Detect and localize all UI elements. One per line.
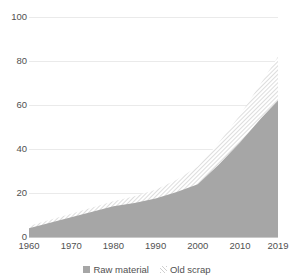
chart-legend: Raw materialOld scrap bbox=[0, 262, 294, 276]
y-axis-tick-label: 80 bbox=[1, 56, 27, 66]
solid-gray-square-icon bbox=[83, 266, 90, 273]
y-axis-tick-label: 20 bbox=[1, 188, 27, 198]
hatched-square-icon bbox=[160, 266, 167, 273]
chart-title bbox=[0, 0, 294, 3]
x-axis: 1960197019801990200020102019 bbox=[0, 240, 294, 254]
y-axis-tick-label: 60 bbox=[1, 100, 27, 110]
x-axis-tick-label: 2000 bbox=[187, 240, 208, 252]
y-axis-tick-label: 40 bbox=[1, 144, 27, 154]
x-axis-tick-label: 1980 bbox=[103, 240, 124, 252]
legend-label: Raw material bbox=[93, 264, 148, 275]
plot-area bbox=[29, 17, 278, 237]
legend-label: Old scrap bbox=[170, 264, 211, 275]
x-axis-line bbox=[29, 237, 278, 238]
x-axis-tick-label: 1960 bbox=[18, 240, 39, 252]
x-axis-tick-label: 1970 bbox=[61, 240, 82, 252]
x-axis-tick-label: 2019 bbox=[267, 240, 288, 252]
series-layer bbox=[29, 17, 278, 237]
y-axis-tick-label: 100 bbox=[1, 12, 27, 22]
y-axis: 020406080100 bbox=[0, 0, 27, 278]
legend-item[interactable]: Raw material bbox=[83, 264, 148, 275]
x-axis-tick-label: 2010 bbox=[229, 240, 250, 252]
legend-item[interactable]: Old scrap bbox=[160, 264, 211, 275]
x-axis-tick-label: 1990 bbox=[145, 240, 166, 252]
stacked-area-chart: 020406080100 196019701980199020002010201… bbox=[0, 0, 294, 278]
